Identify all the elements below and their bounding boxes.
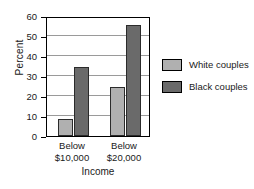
legend-item: Black couples (162, 78, 249, 95)
legend-swatch (162, 81, 182, 93)
bar-chart-figure: Percent 0102030405060 Below$10,000Below$… (0, 0, 254, 189)
legend-swatch (162, 59, 182, 71)
bar (110, 87, 125, 136)
y-axis-tick-mark (41, 137, 46, 138)
bar (58, 119, 73, 136)
y-axis-tick-label: 60 (1, 11, 37, 22)
plot-area (46, 17, 150, 137)
y-axis-tick-label: 40 (1, 51, 37, 62)
y-axis-tick-label: 0 (1, 131, 37, 142)
legend-item: White couples (162, 56, 249, 73)
x-axis-tick-label: Below$10,000 (42, 140, 102, 164)
legend-label: Black couples (189, 81, 248, 92)
legend: White couplesBlack couples (162, 56, 249, 100)
y-axis-tick-label: 10 (1, 111, 37, 122)
bar (126, 25, 141, 136)
y-axis-ticks: 0102030405060 (0, 17, 46, 137)
y-axis-tick-label: 50 (1, 31, 37, 42)
x-axis-title: Income (46, 166, 150, 177)
y-axis-tick-label: 20 (1, 91, 37, 102)
y-axis-tick-label: 30 (1, 71, 37, 82)
bars-layer (47, 18, 149, 136)
legend-label: White couples (189, 59, 249, 70)
x-axis-tick-label: Below$20,000 (94, 140, 154, 164)
bar (74, 67, 89, 136)
